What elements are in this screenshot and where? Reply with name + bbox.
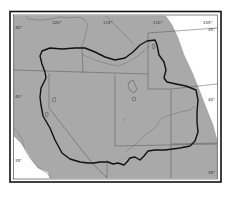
svg-text:40°: 40° bbox=[15, 94, 22, 99]
utah-lake bbox=[132, 97, 136, 101]
svg-text:40°: 40° bbox=[15, 25, 22, 30]
map-figure: 120° 115° 110° 105° 40° 45° 40° 40° 35° … bbox=[0, 0, 236, 203]
svg-text:110°: 110° bbox=[153, 20, 163, 25]
svg-text:45°: 45° bbox=[208, 27, 215, 32]
svg-text:115°: 115° bbox=[103, 20, 113, 25]
svg-text:105°: 105° bbox=[203, 20, 213, 25]
svg-text:40°: 40° bbox=[208, 97, 215, 102]
svg-text:35°: 35° bbox=[15, 158, 22, 163]
svg-text:120°: 120° bbox=[52, 20, 62, 25]
svg-text:35°: 35° bbox=[208, 170, 215, 175]
